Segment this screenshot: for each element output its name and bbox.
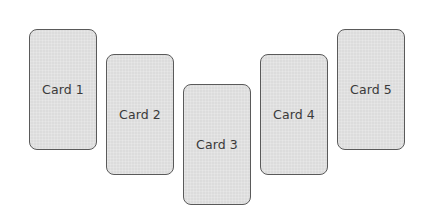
card-2[interactable]: Card 2 — [106, 54, 174, 175]
card-4[interactable]: Card 4 — [260, 54, 328, 175]
card-3[interactable]: Card 3 — [183, 84, 251, 205]
card-4-label: Card 4 — [273, 107, 315, 122]
card-2-label: Card 2 — [119, 107, 161, 122]
card-1[interactable]: Card 1 — [29, 29, 97, 150]
card-5[interactable]: Card 5 — [337, 29, 405, 150]
card-5-label: Card 5 — [350, 82, 392, 97]
card-1-label: Card 1 — [42, 82, 84, 97]
card-spread: Card 1 Card 2 Card 3 Card 4 Card 5 — [0, 0, 432, 224]
card-3-label: Card 3 — [196, 137, 238, 152]
